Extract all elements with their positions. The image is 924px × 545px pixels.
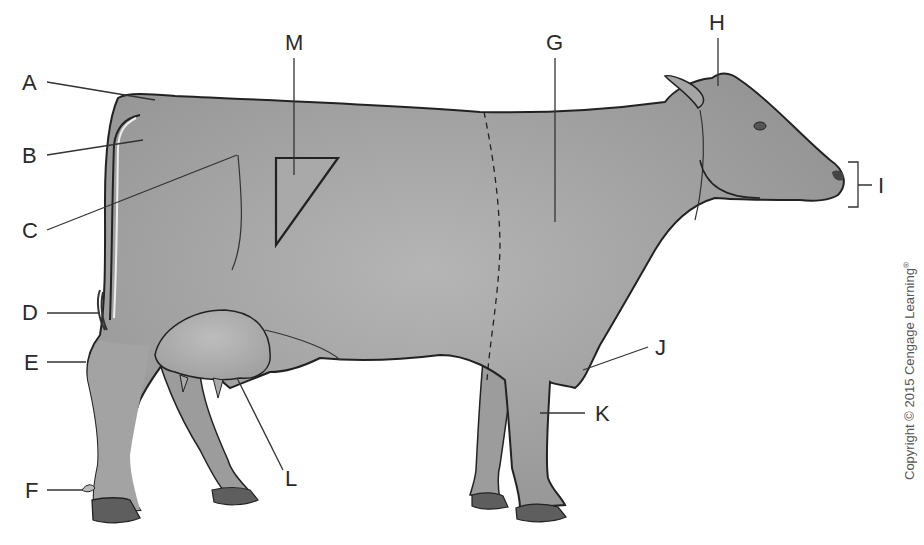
teat: [213, 378, 223, 398]
label-D: D: [22, 302, 38, 324]
label-M: M: [285, 32, 303, 54]
label-I: I: [878, 175, 884, 197]
leader-A: [47, 82, 155, 100]
leader-L: [237, 378, 283, 470]
label-C: C: [22, 220, 38, 242]
cow-diagram: A B C D E F G H I J K L M Copyright © 20…: [0, 0, 924, 545]
copyright-text: Copyright © 2015 Cengage Learning: [902, 268, 917, 480]
label-E: E: [24, 352, 39, 374]
label-B: B: [22, 145, 37, 167]
far-fore-hoof: [472, 493, 508, 509]
label-J: J: [655, 337, 666, 359]
bracket-I: [848, 162, 872, 207]
far-hind-hoof: [212, 488, 258, 505]
label-F: F: [25, 480, 38, 502]
near-hind-leg: [88, 340, 150, 512]
eye: [754, 122, 766, 130]
label-K: K: [595, 403, 610, 425]
label-G: G: [546, 32, 563, 54]
label-H: H: [709, 12, 725, 34]
label-L: L: [285, 468, 297, 490]
registered-mark: ®: [902, 262, 911, 268]
label-A: A: [22, 72, 37, 94]
cow-illustration: [0, 0, 924, 545]
near-fore-hoof: [516, 504, 566, 522]
copyright-notice: Copyright © 2015 Cengage Learning®: [902, 262, 917, 480]
